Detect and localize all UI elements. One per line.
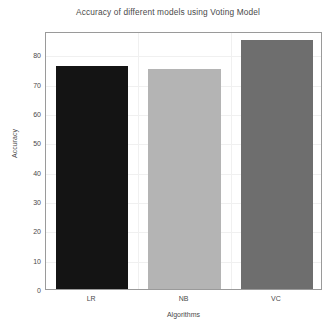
y-tick-label: 60	[0, 111, 41, 118]
bar-nb	[148, 69, 220, 289]
gridline-vertical	[138, 33, 139, 289]
y-tick-label: 30	[0, 199, 41, 206]
plot-area	[45, 32, 322, 290]
y-tick-label: 50	[0, 140, 41, 147]
y-tick-label: 10	[0, 257, 41, 264]
bar-vc	[241, 40, 313, 289]
chart-title: Accuracy of different models using Votin…	[0, 7, 336, 17]
y-tick-label: 80	[0, 52, 41, 59]
chart-figure: Accuracy of different models using Votin…	[0, 0, 336, 330]
y-axis-tick-labels: 01020304050607080	[0, 32, 41, 290]
x-tick-label: VC	[271, 295, 281, 302]
bar-lr	[56, 66, 128, 289]
y-tick-label: 20	[0, 228, 41, 235]
x-tick-label: LR	[87, 295, 96, 302]
y-tick-label: 70	[0, 81, 41, 88]
y-tick-label: 40	[0, 169, 41, 176]
y-tick-label: 0	[0, 287, 41, 294]
x-axis-tick-labels: LRNBVC	[45, 295, 322, 307]
x-axis-label: Algorithms	[45, 311, 322, 318]
gridline-vertical	[231, 33, 232, 289]
x-tick-label: NB	[179, 295, 189, 302]
